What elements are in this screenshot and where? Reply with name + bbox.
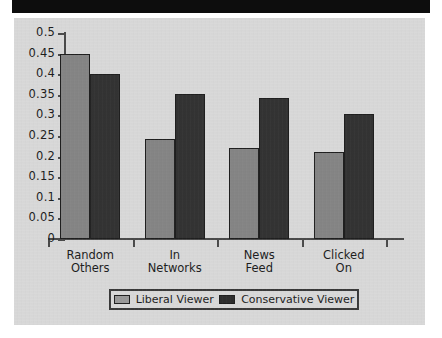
category-label: Clicked On bbox=[299, 249, 389, 275]
category-label: In Networks bbox=[130, 249, 220, 275]
category-label: Random Others bbox=[45, 249, 135, 275]
legend-entry-liberal: Liberal Viewer bbox=[114, 293, 214, 306]
plot-area: 0.50.450.40.350.30.250.20.150.10.050 Ran… bbox=[14, 18, 425, 325]
legend-swatch-liberal bbox=[114, 295, 130, 304]
bar-conservative bbox=[259, 98, 289, 239]
bars-layer bbox=[14, 18, 425, 325]
bar-liberal bbox=[229, 148, 259, 239]
legend-entry-conservative: Conservative Viewer bbox=[219, 293, 354, 306]
figure-panel: 0.50.450.40.350.30.250.20.150.10.050 Ran… bbox=[14, 18, 425, 325]
legend-swatch-conservative bbox=[219, 295, 235, 304]
legend-label-liberal: Liberal Viewer bbox=[136, 293, 214, 306]
legend-label-conservative: Conservative Viewer bbox=[241, 293, 354, 306]
bar-conservative bbox=[90, 74, 120, 239]
chart-legend: Liberal Viewer Conservative Viewer bbox=[109, 289, 359, 310]
category-label: News Feed bbox=[214, 249, 304, 275]
bar-liberal bbox=[145, 139, 175, 239]
bar-liberal bbox=[314, 152, 344, 239]
chart-screenshot: 0.50.450.40.350.30.250.20.150.10.050 Ran… bbox=[0, 0, 442, 338]
bar-conservative bbox=[344, 114, 374, 239]
scan-artifact-band bbox=[12, 0, 430, 13]
bar-conservative bbox=[175, 94, 205, 239]
bar-liberal bbox=[60, 54, 90, 239]
